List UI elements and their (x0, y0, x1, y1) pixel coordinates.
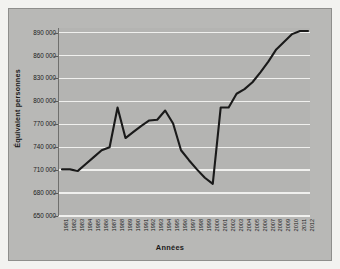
x-axis-tick-label: 1997 (190, 219, 196, 231)
x-axis-tick-label: 2011 (301, 219, 307, 231)
x-axis-tick-label: 1989 (127, 219, 133, 231)
x-axis-tick-label: 1984 (87, 219, 93, 231)
x-axis-tick-label: 1988 (119, 219, 125, 231)
x-axis-tick-label: 1982 (71, 219, 77, 231)
x-axis-tick-label: 1992 (150, 219, 156, 231)
y-axis-tick-label: 770 000 (0, 120, 56, 127)
x-axis-tick-label: 2006 (262, 219, 268, 231)
x-axis-tick-label: 1995 (174, 219, 180, 231)
x-axis-tick-label: 2003 (238, 219, 244, 231)
y-axis-tick-mark (54, 216, 58, 217)
x-axis-tick-label: 2012 (309, 219, 315, 231)
y-axis-tick-label: 650 000 (0, 212, 56, 219)
x-axis-tick-label: 2008 (277, 219, 283, 231)
y-axis-tick-label: 740 000 (0, 143, 56, 150)
x-axis-tick-label: 1998 (198, 219, 204, 231)
x-axis-tick-label: 2005 (254, 219, 260, 231)
x-axis-tick-label: 1986 (103, 219, 109, 231)
y-axis-tick-label: 860 000 (0, 52, 56, 59)
x-axis-tick-label: 1991 (143, 219, 149, 231)
x-axis-tick-label: 2007 (270, 219, 276, 231)
y-axis-title: Équivalent personnes (13, 49, 22, 169)
y-axis-tick-label: 890 000 (0, 29, 56, 36)
x-axis-tick-label: 1981 (63, 219, 69, 231)
x-axis-title: Années (0, 243, 340, 252)
x-axis-tick-label: 1999 (206, 219, 212, 231)
x-axis-tick-label: 1983 (79, 219, 85, 231)
x-axis-tick-label: 1985 (95, 219, 101, 231)
y-axis-tick-label: 680 000 (0, 189, 56, 196)
plot-area (58, 28, 310, 216)
y-axis-tick-label: 710 000 (0, 166, 56, 173)
x-axis-tick-label: 1987 (111, 219, 117, 231)
x-axis-tick-label: 2000 (214, 219, 220, 231)
x-axis-tick-label: 1996 (182, 219, 188, 231)
x-axis-tick-label: 1990 (135, 219, 141, 231)
y-axis-tick-label: 800 000 (0, 97, 56, 104)
data-series-line (59, 28, 311, 216)
x-axis-tick-label: 1994 (166, 219, 172, 231)
x-axis-tick-label: 2001 (222, 219, 228, 231)
x-axis-tick-label: 1993 (158, 219, 164, 231)
x-axis-tick-label: 2010 (293, 219, 299, 231)
x-axis-tick-label: 2004 (246, 219, 252, 231)
x-axis-tick-label: 2009 (285, 219, 291, 231)
x-axis-tick-label: 2002 (230, 219, 236, 231)
y-axis-tick-label: 830 000 (0, 74, 56, 81)
chart-figure: Équivalent personnes 650 000680 000710 0… (0, 0, 340, 269)
